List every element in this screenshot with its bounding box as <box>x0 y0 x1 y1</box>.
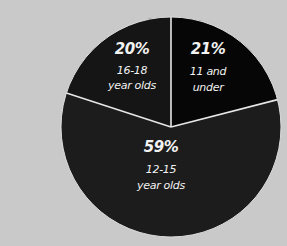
slice-16-18-percent: 20% <box>115 42 149 57</box>
slice-11-under-label-line1: 11 and <box>190 66 226 77</box>
slice-12-15-label-line1: 12-15 <box>146 164 176 175</box>
slice-16-18-label-line2: year olds <box>108 80 156 91</box>
slice-11-under-percent: 21% <box>191 42 225 57</box>
slice-12-15-percent: 59% <box>144 140 178 155</box>
slice-11-under-label-line2: under <box>193 82 224 93</box>
pie-slices <box>61 17 281 237</box>
slice-12-15-label-line2: year olds <box>137 180 185 191</box>
slice-16-18-label-line1: 16-18 <box>117 65 147 76</box>
pie-chart <box>0 0 287 246</box>
